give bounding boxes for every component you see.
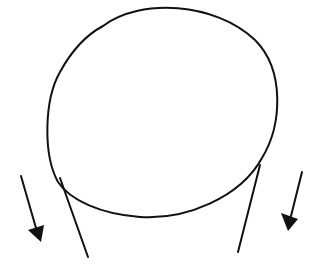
head-sketch-drawing	[0, 0, 315, 277]
sketch-canvas	[0, 0, 315, 277]
